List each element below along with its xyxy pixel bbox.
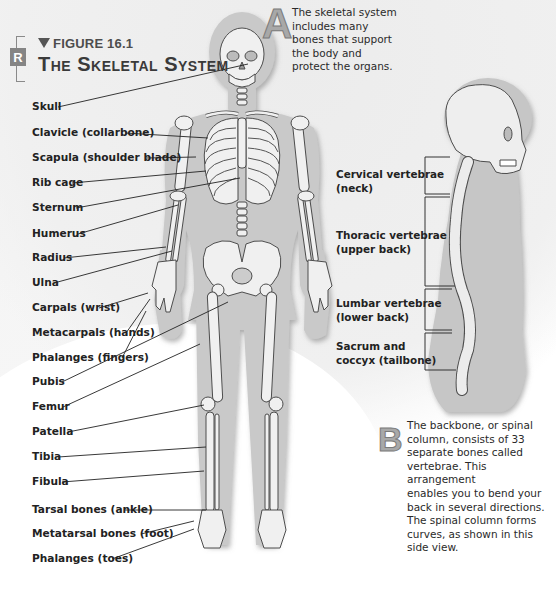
r-badge: R	[10, 48, 26, 66]
caption-a-letter: A	[262, 5, 292, 43]
caption-b-line: enables you to bend your	[407, 487, 556, 501]
spine-label-line: Cervical vertebrae	[336, 168, 444, 182]
label-pubis: Pubis	[32, 375, 65, 387]
label-sternum: Sternum	[32, 201, 83, 213]
spine-label-line: Thoracic vertebrae	[336, 229, 447, 243]
caption-a-line: The skeletal system	[292, 6, 397, 20]
label-tarsal-bones: Tarsal bones (ankle)	[32, 503, 153, 515]
label-radius: Radius	[32, 251, 72, 263]
caption-b-line: side view.	[407, 541, 556, 555]
label-phalanges-fingers: Phalanges (fingers)	[32, 351, 149, 363]
label-patella: Patella	[32, 425, 73, 437]
figure-number: FIGURE 16.1	[38, 36, 133, 51]
label-fibula: Fibula	[32, 475, 69, 487]
label-metatarsal-bones: Metatarsal bones (foot)	[32, 527, 174, 539]
label-skull: Skull	[32, 100, 61, 112]
caption-b-line: vertebrae. This arrangement	[407, 460, 556, 487]
label-clavicle: Clavicle (collarbone)	[32, 126, 154, 138]
caption-a-line: bones that support	[292, 33, 397, 47]
caption-b-line: The spinal column forms	[407, 514, 556, 528]
caption-b-line: curves, as shown in this	[407, 528, 556, 542]
figure-title: The Skeletal System	[38, 53, 229, 76]
spine-label-line: Sacrum and	[336, 340, 436, 354]
figure-number-text: FIGURE 16.1	[53, 36, 133, 51]
caption-b-line: column, consists of 33	[407, 433, 556, 447]
spine-label-line: (lower back)	[336, 311, 442, 325]
triangle-down-icon	[38, 38, 50, 48]
spine-label-line: (upper back)	[336, 243, 447, 257]
caption-b-line: The backbone, or spinal	[407, 419, 556, 433]
label-femur: Femur	[32, 400, 70, 412]
spine-label-line: Lumbar vertebrae	[336, 297, 442, 311]
caption-a: The skeletal system includes many bones …	[292, 6, 397, 74]
label-phalanges-toes: Phalanges (toes)	[32, 552, 133, 564]
label-rib-cage: Rib cage	[32, 176, 83, 188]
label-cervical-vertebrae: Cervical vertebrae (neck)	[336, 168, 444, 195]
spine-label-line: (neck)	[336, 182, 444, 196]
label-metacarpals: Metacarpals (hands)	[32, 326, 155, 338]
caption-b: The backbone, or spinal column, consists…	[407, 419, 556, 555]
label-sacrum-coccyx: Sacrum and coccyx (tailbone)	[336, 340, 436, 367]
label-scapula: Scapula (shoulder blade)	[32, 151, 181, 163]
caption-a-line: includes many	[292, 20, 397, 34]
caption-b-line: separate bones called	[407, 446, 556, 460]
label-carpals: Carpals (wrist)	[32, 301, 120, 313]
caption-a-line: protect the organs.	[292, 60, 397, 74]
label-lumbar-vertebrae: Lumbar vertebrae (lower back)	[336, 297, 442, 324]
label-tibia: Tibia	[32, 450, 61, 462]
caption-b-line: back in several directions.	[407, 501, 556, 515]
label-humerus: Humerus	[32, 227, 86, 239]
caption-b-letter: B	[378, 420, 403, 458]
reading-badge: R	[6, 36, 28, 80]
spine-label-line: coccyx (tailbone)	[336, 354, 436, 368]
label-thoracic-vertebrae: Thoracic vertebrae (upper back)	[336, 229, 447, 256]
caption-a-line: the body and	[292, 47, 397, 61]
label-ulna: Ulna	[32, 276, 59, 288]
